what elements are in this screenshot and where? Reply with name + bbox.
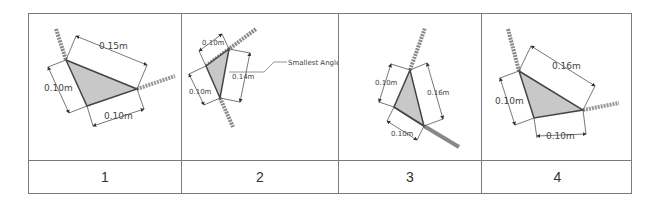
figure-2-number: 2 [182,161,338,194]
figure-1-cell: 0.15m 0.10m 0.10m [29,14,181,160]
smallest-angle-callout: Smallest Angle [288,59,338,67]
figure-1-number: 1 [29,161,181,194]
figure-3-cell: 0.10m 0.16m 0.10m [339,14,481,160]
dimension-label: 0.14m [232,73,255,81]
dimension-label: 0.10m [104,111,133,121]
dimension-label: 0.10m [44,83,73,93]
triangle-diagram-4: 0.16m 0.10m 0.10m [482,14,633,160]
dimension-label: 0.16m [552,61,581,71]
dimension-label: 0.10m [391,130,414,138]
dimension-label: 0.10m [375,79,398,87]
dimension-label: 0.10m [546,131,575,141]
dimension-label: 0.16m [427,89,450,97]
figure-4-cell: 0.16m 0.10m 0.10m [482,14,633,160]
dimension-label: 0.10m [495,96,524,106]
triangle-diagram-2: 0.10m 0.10m 0.14m Smallest Angle [182,14,338,160]
dimension-label: 0.10m [202,39,225,47]
dimension-label: 0.15m [99,41,128,51]
figure-3-number: 3 [339,161,481,194]
figure-table: 0.15m 0.10m 0.10m 1 0.10m 0.10m [28,13,632,194]
figure-2-cell: 0.10m 0.10m 0.14m Smallest Angle [182,14,338,160]
dimension-label: 0.10m [189,88,212,96]
figure-4-number: 4 [482,161,633,194]
triangle-diagram-1: 0.15m 0.10m 0.10m [29,14,181,160]
triangle-diagram-3: 0.10m 0.16m 0.10m [339,14,481,160]
